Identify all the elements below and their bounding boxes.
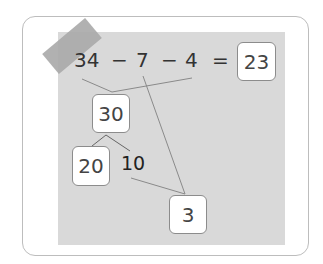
term-7: 7 (136, 48, 149, 72)
term-34: 34 (74, 48, 99, 72)
remainder-box-3[interactable]: 3 (169, 195, 207, 234)
split-text-10: 10 (121, 152, 145, 174)
minus-sign-2: − (161, 48, 178, 72)
answer-box[interactable]: 23 (237, 42, 276, 81)
split-box-20[interactable]: 20 (72, 146, 110, 186)
sum-box-30[interactable]: 30 (92, 94, 130, 133)
equals-sign: = (212, 48, 229, 72)
term-4: 4 (185, 48, 198, 72)
minus-sign-1: − (111, 48, 128, 72)
connector-lines (0, 0, 323, 264)
